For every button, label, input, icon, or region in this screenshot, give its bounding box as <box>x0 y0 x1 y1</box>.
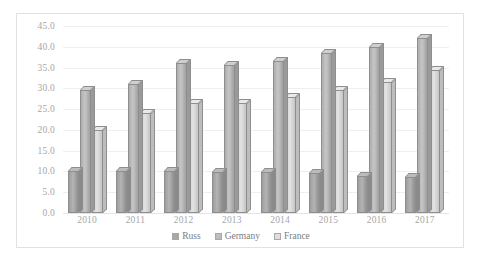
bar-group <box>304 26 352 213</box>
bar-face <box>68 171 79 213</box>
bar-side <box>284 57 288 213</box>
bar-side <box>187 59 191 213</box>
bar-russ-2011 <box>116 171 127 213</box>
bar-side <box>428 34 432 213</box>
x-axis-tick-label: 2014 <box>270 215 290 225</box>
bar-side <box>272 168 276 213</box>
bar-russ-2010 <box>68 171 79 213</box>
bar-side <box>91 86 95 213</box>
bar-side <box>223 168 227 213</box>
bar-russ-2014 <box>261 172 272 213</box>
x-axis-tick-label: 2012 <box>174 215 194 225</box>
y-axis-tick-label: 30.0 <box>38 83 55 93</box>
y-axis-tick-label: 25.0 <box>38 104 55 114</box>
x-axis-tick-label: 2010 <box>77 215 97 225</box>
bar-group <box>160 26 208 213</box>
bar-face <box>261 172 272 213</box>
legend-swatch-icon <box>215 233 222 240</box>
bar-side <box>380 43 384 213</box>
bar-group <box>353 26 401 213</box>
bar-side <box>199 99 203 213</box>
y-axis: 0.05.010.015.020.025.030.035.040.045.0 <box>17 26 59 213</box>
plot-area <box>63 26 449 213</box>
legend-swatch-icon <box>172 233 179 240</box>
bar-face <box>309 173 320 213</box>
x-axis-tick-label: 2015 <box>318 215 338 225</box>
x-axis-tick-label: 2013 <box>222 215 242 225</box>
bar-face <box>405 177 416 213</box>
bar-side <box>103 126 107 213</box>
bar-group <box>63 26 111 213</box>
bar-russ-2017 <box>405 177 416 213</box>
bar-face <box>357 176 368 213</box>
bar-side <box>151 109 155 213</box>
bar-russ-2015 <box>309 173 320 213</box>
legend-label: Germany <box>225 231 260 241</box>
bar-face <box>212 172 223 213</box>
bar-side <box>440 66 444 213</box>
x-axis-tick-label: 2017 <box>415 215 435 225</box>
bar-russ-2012 <box>164 171 175 213</box>
bar-russ-2016 <box>357 176 368 213</box>
y-axis-tick-label: 35.0 <box>38 63 55 73</box>
y-axis-tick-label: 0.0 <box>43 208 55 218</box>
bar-group <box>111 26 159 213</box>
y-axis-tick-label: 20.0 <box>38 125 55 135</box>
x-axis-tick-label: 2016 <box>367 215 387 225</box>
bar-side <box>247 99 251 213</box>
bar-face <box>116 171 127 213</box>
bar-side <box>139 80 143 213</box>
x-axis-tick-label: 2011 <box>126 215 145 225</box>
legend-label: Russ <box>182 231 200 241</box>
bar-group <box>256 26 304 213</box>
y-axis-tick-label: 15.0 <box>38 146 55 156</box>
bar-face <box>164 171 175 213</box>
chart-legend: RussGermanyFrance <box>17 228 465 244</box>
bar-group <box>401 26 449 213</box>
bar-side <box>344 86 348 213</box>
bar-side <box>332 49 336 213</box>
y-axis-tick-label: 45.0 <box>38 21 55 31</box>
bar-side <box>368 172 372 213</box>
bar-side <box>127 167 131 213</box>
legend-item-russ[interactable]: Russ <box>172 231 200 241</box>
bar-side <box>392 78 396 213</box>
bar-side <box>175 167 179 213</box>
bar-russ-2013 <box>212 172 223 213</box>
bar-side <box>235 61 239 213</box>
bar-side <box>320 169 324 213</box>
chart-frame: 0.05.010.015.020.025.030.035.040.045.0 2… <box>16 13 464 248</box>
legend-item-france[interactable]: France <box>274 231 310 241</box>
bar-side <box>416 173 420 213</box>
legend-label: France <box>284 231 310 241</box>
y-axis-tick-label: 40.0 <box>38 42 55 52</box>
legend-item-germany[interactable]: Germany <box>215 231 260 241</box>
bar-side <box>79 167 83 213</box>
bar-group <box>208 26 256 213</box>
y-axis-tick-label: 5.0 <box>43 187 55 197</box>
legend-swatch-icon <box>274 233 281 240</box>
y-axis-tick-label: 10.0 <box>38 166 55 176</box>
bar-side <box>296 93 300 213</box>
